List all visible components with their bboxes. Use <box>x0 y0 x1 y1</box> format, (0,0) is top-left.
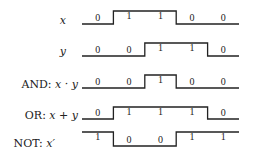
bit-value: 0 <box>95 107 100 118</box>
bit-value: 0 <box>95 12 100 23</box>
bit-value: 0 <box>221 44 226 55</box>
bit-value: 0 <box>189 76 194 87</box>
timing-diagram: x y AND: x · y OR: x + y NOT: x′ 0110000… <box>0 0 254 158</box>
bit-value: 0 <box>158 134 163 145</box>
waveforms: 0110000110001000111010011 <box>0 0 254 158</box>
bit-value: 0 <box>127 134 132 145</box>
bit-value: 0 <box>95 76 100 87</box>
bit-value: 0 <box>127 76 132 87</box>
bit-value: 0 <box>221 12 226 23</box>
bit-value: 0 <box>189 12 194 23</box>
bit-value: 0 <box>95 44 100 55</box>
bit-value: 0 <box>127 44 132 55</box>
bit-value: 0 <box>221 107 226 118</box>
bit-value: 0 <box>221 76 226 87</box>
